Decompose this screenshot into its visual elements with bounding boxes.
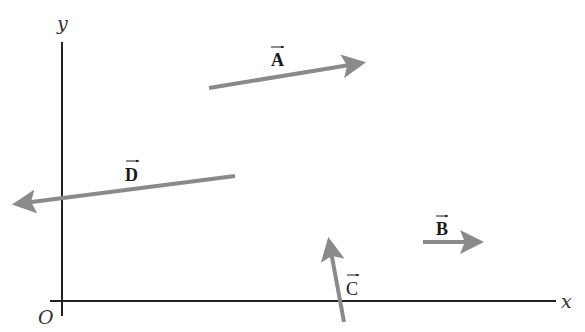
- vector-c: C: [329, 241, 359, 322]
- vector-a: A: [209, 47, 362, 88]
- vector-b-label: B: [436, 219, 448, 239]
- vector-a-label: A: [271, 50, 284, 70]
- diagram-canvas: y x O A B C D: [0, 0, 585, 332]
- x-axis-label: x: [561, 290, 572, 312]
- origin-label: O: [38, 306, 54, 328]
- vector-diagram: y x O A B C D: [0, 0, 585, 332]
- vector-d-label: D: [125, 165, 138, 185]
- y-axis-label: y: [56, 12, 68, 34]
- vector-b: B: [423, 216, 480, 242]
- vector-d: D: [16, 161, 235, 204]
- vector-c-label: C: [346, 279, 358, 299]
